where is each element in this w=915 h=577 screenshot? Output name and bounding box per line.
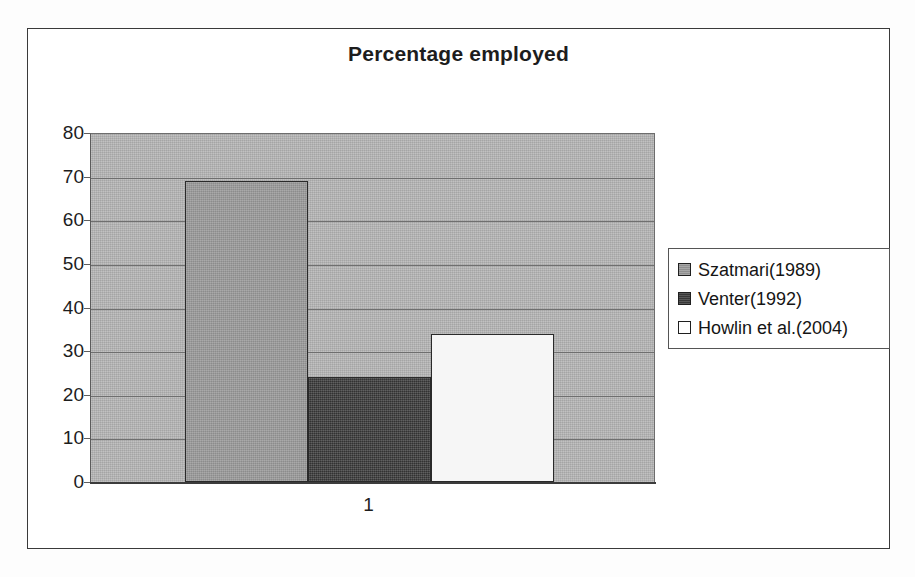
bar-szatmari-1989: [185, 181, 308, 482]
chart-figure: Percentage employed 80706050403020100 1 …: [0, 0, 915, 577]
y-axis-tick-mark: [84, 133, 90, 134]
legend-item-label: Venter(1992): [698, 290, 802, 308]
chart-title: Percentage employed: [27, 42, 890, 66]
y-axis-tick-mark: [84, 308, 90, 309]
bar-venter-1992: [308, 377, 431, 482]
legend-swatch-icon: [678, 292, 691, 305]
chart-legend: Szatmari(1989)Venter(1992)Howlin et al.(…: [668, 248, 890, 349]
gridline: [91, 265, 654, 266]
legend-item: Venter(1992): [678, 284, 889, 313]
y-axis-tick-mark: [84, 351, 90, 352]
gridline: [91, 178, 654, 179]
y-axis: 80706050403020100: [24, 0, 84, 577]
y-axis-tick-mark: [84, 438, 90, 439]
bar-howlin-et-al-2004: [431, 334, 554, 482]
y-axis-tick-label: 20: [32, 384, 84, 406]
y-axis-tick-mark: [84, 482, 90, 483]
gridline: [91, 221, 654, 222]
gridline: [91, 352, 654, 353]
legend-swatch-icon: [678, 321, 691, 334]
y-axis-tick-mark: [84, 264, 90, 265]
x-axis: 1: [90, 494, 655, 524]
legend-item: Szatmari(1989): [678, 255, 889, 284]
y-axis-tick-label: 70: [32, 166, 84, 188]
x-axis-tick-label: 1: [363, 494, 374, 516]
y-axis-tick-label: 0: [32, 471, 84, 493]
y-axis-tick-label: 50: [32, 253, 84, 275]
gridline: [91, 309, 654, 310]
y-axis-tick-label: 80: [32, 122, 84, 144]
y-axis-tick-label: 10: [32, 427, 84, 449]
legend-item: Howlin et al.(2004): [678, 313, 889, 342]
legend-swatch-icon: [678, 263, 691, 276]
x-axis-line: [90, 482, 656, 484]
y-axis-tick-label: 60: [32, 209, 84, 231]
y-axis-tick-mark: [84, 395, 90, 396]
plot-area: [90, 133, 655, 482]
legend-item-label: Howlin et al.(2004): [698, 319, 848, 337]
legend-item-label: Szatmari(1989): [698, 261, 821, 279]
y-axis-tick-mark: [84, 177, 90, 178]
y-axis-tick-label: 40: [32, 297, 84, 319]
y-axis-tick-mark: [84, 220, 90, 221]
y-axis-tick-label: 30: [32, 340, 84, 362]
